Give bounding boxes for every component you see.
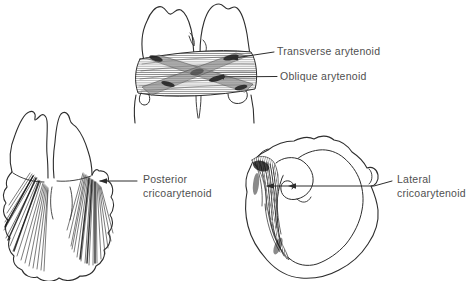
posterior-cricoarytenoid-figure xyxy=(3,111,113,281)
right-arytenoid-apex-detail xyxy=(203,40,206,51)
label-text-line2: cricoarytenoid xyxy=(143,187,212,201)
right-arytenoid-outline xyxy=(53,112,92,178)
lateral-cricoarytenoid-figure xyxy=(246,136,379,278)
right-arytenoid-outline xyxy=(200,4,250,55)
leader-line xyxy=(217,77,277,78)
right-tubercle-detail xyxy=(369,169,372,184)
shading-spot xyxy=(252,173,260,196)
median-ridge-lines xyxy=(51,187,73,220)
lateral-cricoarytenoid-label: Lateral cricoarytenoid xyxy=(397,173,466,200)
label-text: Transverse arytenoid xyxy=(277,45,380,57)
transverse-arytenoid-label: Transverse arytenoid xyxy=(277,45,380,59)
left-arytenoid-outline xyxy=(10,111,48,178)
label-text: Oblique arytenoid xyxy=(280,70,367,82)
label-text-line1: Lateral xyxy=(397,173,431,185)
laryngeal-muscles-diagram: Transverse arytenoid Oblique arytenoid P… xyxy=(0,0,467,281)
oblique-arytenoid-label: Oblique arytenoid xyxy=(280,70,367,84)
transverse-oblique-arytenoid-figure xyxy=(134,4,256,123)
left-lower-edge xyxy=(134,95,136,123)
label-text-line2: cricoarytenoid xyxy=(397,187,466,201)
posterior-cricoarytenoid-label: Posterior cricoarytenoid xyxy=(143,173,212,200)
posterior-cricoarytenoid-leader xyxy=(99,178,137,184)
right-lower-edge xyxy=(251,95,254,123)
midline-cleft xyxy=(196,96,201,118)
diagram-canvas xyxy=(0,0,467,281)
arrowhead-icon xyxy=(99,178,107,184)
label-text-line1: Posterior xyxy=(143,173,187,185)
